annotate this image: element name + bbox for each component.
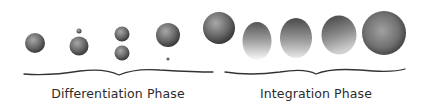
sphere-icon — [115, 46, 130, 61]
integration-phase-label: Integration Phase — [260, 86, 372, 101]
differentiation-shapes — [25, 23, 180, 61]
sphere-icon — [70, 37, 89, 56]
egg-shape-icon — [322, 16, 357, 55]
egg-shape-icon — [280, 18, 312, 58]
differentiation-phase-label: Differentiation Phase — [51, 86, 184, 101]
brace-integration — [225, 69, 405, 74]
brace-differentiation — [24, 70, 213, 75]
tiny-dot-icon — [166, 57, 169, 60]
egg-shape-icon — [243, 22, 272, 60]
sphere-icon — [203, 12, 235, 44]
small-dot-icon — [77, 29, 82, 34]
sphere-icon — [156, 23, 180, 47]
sphere-icon — [115, 27, 130, 42]
integration-shapes — [203, 11, 406, 60]
sphere-icon — [362, 11, 406, 55]
sphere-icon — [25, 33, 45, 53]
